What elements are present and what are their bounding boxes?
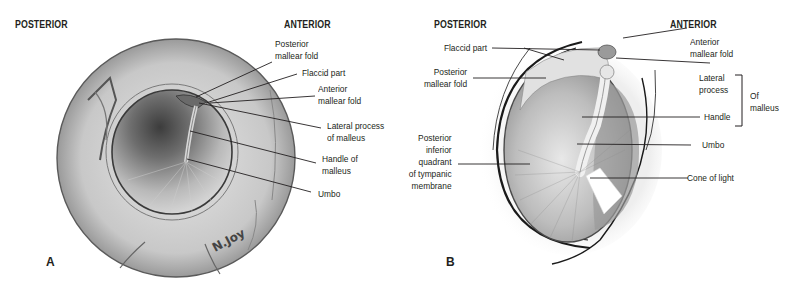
panel-letter-b: B — [446, 255, 455, 269]
label-flaccid-part: Flaccid part — [302, 67, 345, 79]
label-posterior-inferior-quadrant: Posterior inferior quadrant of tympanic … — [409, 132, 452, 192]
orientation-posterior-label: POSTERIOR — [15, 19, 68, 30]
orientation-anterior-label: ANTERIOR — [670, 19, 717, 30]
panel-a: N.Joy POSTERIOR ANTERIOR Posterior malle… — [0, 0, 400, 286]
label-umbo: Umbo — [702, 139, 724, 151]
label-posterior-mallear-fold: Posterior mallear fold — [424, 66, 467, 90]
label-umbo: Umbo — [318, 188, 340, 200]
label-posterior-mallear-fold: Posterior mallear fold — [275, 38, 318, 62]
label-handle: Handle — [704, 111, 730, 123]
label-anterior-mallear-fold: Anterior mallear fold — [318, 83, 361, 107]
label-flaccid-part: Flaccid part — [444, 42, 487, 54]
orientation-anterior-label: ANTERIOR — [284, 19, 331, 30]
panel-letter-a: A — [46, 255, 55, 269]
label-cone-of-light: Cone of light — [687, 172, 734, 184]
label-lateral-process: Lateral process — [699, 72, 728, 96]
orientation-posterior-label: POSTERIOR — [434, 19, 487, 30]
label-of-malleus: Of malleus — [750, 90, 779, 114]
of-malleus-bracket — [735, 75, 742, 126]
panel-b: POSTERIOR ANTERIOR Flaccid part Posterio… — [400, 0, 801, 286]
label-lateral-process-of-malleus: Lateral process of malleus — [327, 120, 384, 144]
label-handle-of-malleus: Handle of malleus — [322, 153, 358, 177]
label-anterior-mallear-fold: Anterior mallear fold — [690, 36, 733, 60]
